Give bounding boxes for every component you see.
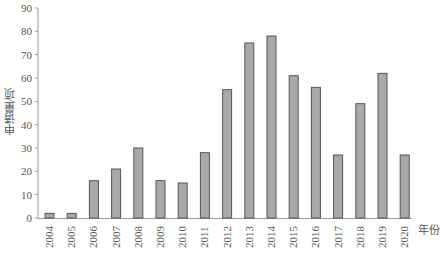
x-tick-label: 2007 [111,226,122,248]
y-tick-label: 40 [6,119,32,131]
y-tick-label: 50 [6,95,32,107]
x-axis-label: 年份 [418,221,440,237]
bar-2014 [267,36,276,218]
x-tick-label: 2012 [222,226,233,248]
x-tick-label: 2014 [266,226,277,248]
bar-2010 [178,183,187,218]
bar-2019 [378,73,387,218]
x-tick-label: 2018 [355,226,366,248]
y-tick-label: 30 [6,142,32,154]
bar-2009 [156,181,165,218]
x-tick-label: 2013 [244,226,255,248]
x-tick-label: 2008 [133,226,144,248]
x-tick-label: 2020 [399,226,410,248]
bar-2006 [89,181,98,218]
bar-2004 [45,213,54,218]
bar-2017 [334,155,343,218]
x-tick-label: 2009 [155,226,166,248]
bar-2008 [134,148,143,218]
bar-2005 [67,213,76,218]
x-tick-label: 2015 [288,226,299,248]
x-tick-label: 2011 [199,226,210,248]
x-tick-label: 2016 [310,226,321,248]
plot-area [0,0,444,258]
bar-2012 [223,90,232,218]
x-tick-label: 2017 [333,226,344,248]
y-tick-label: 0 [6,212,32,224]
bar-2020 [400,155,409,218]
bar-2013 [245,43,254,218]
bar-2015 [289,76,298,218]
bar-2007 [112,169,121,218]
y-tick-label: 70 [6,49,32,61]
y-tick-label: 90 [6,2,32,14]
bar-2011 [200,153,209,218]
bar-2018 [356,104,365,218]
x-tick-label: 2019 [377,226,388,248]
bar-chart: 申请量/项 年份 0102030405060708090 20042005200… [0,0,444,258]
x-tick-label: 2010 [177,226,188,248]
y-tick-label: 80 [6,25,32,37]
y-tick-label: 20 [6,165,32,177]
x-tick-label: 2004 [44,226,55,248]
bar-2016 [311,87,320,218]
y-tick-label: 10 [6,189,32,201]
x-tick-label: 2006 [88,226,99,248]
y-tick-label: 60 [6,72,32,84]
x-tick-label: 2005 [66,226,77,248]
